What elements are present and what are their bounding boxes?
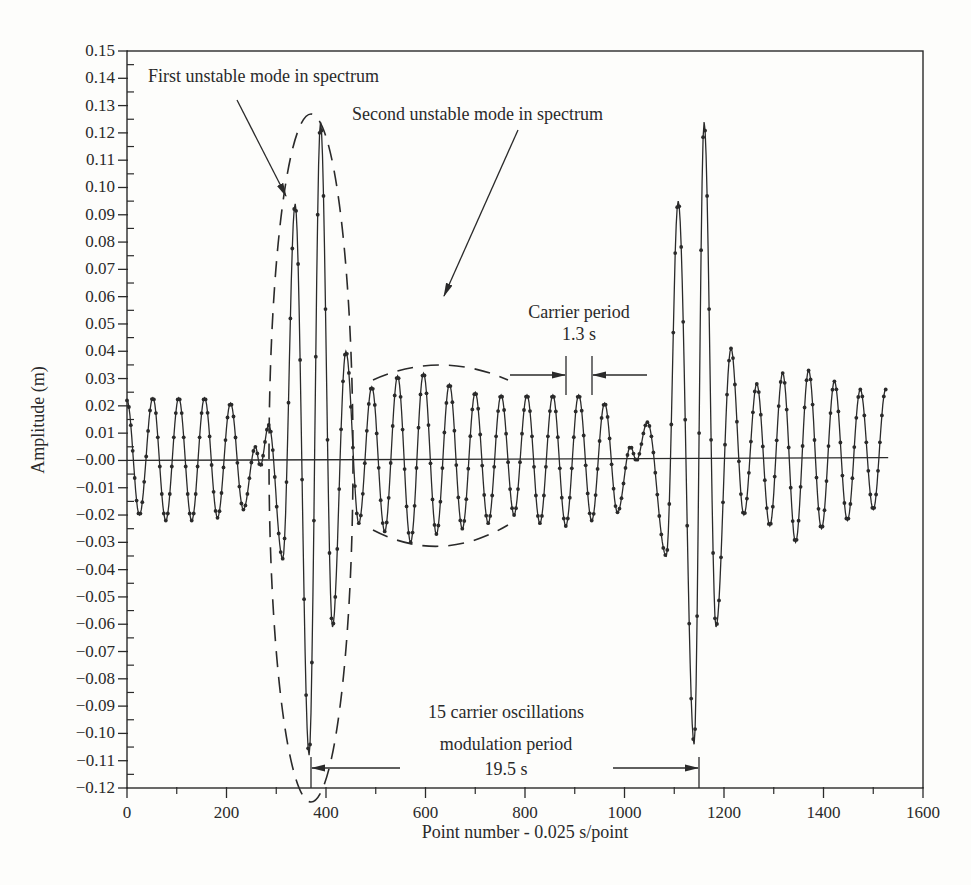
y-tick-label: 0.08: [85, 232, 115, 251]
x-tick-label: 1600: [906, 803, 940, 822]
y-tick-label: −0.07: [76, 642, 116, 661]
y-tick-label: 0.09: [85, 205, 115, 224]
amplitude-series: [125, 122, 888, 755]
y-tick-label: 0.14: [85, 68, 115, 87]
x-tick-label: 200: [214, 803, 240, 822]
y-tick-label: 0.10: [85, 177, 115, 196]
second-mode-envelope-upper: [373, 365, 508, 380]
y-tick-label: 0.11: [86, 150, 115, 169]
x-tick-label: 1200: [707, 803, 741, 822]
y-tick-label: −0.06: [76, 614, 115, 633]
y-tick-label: 0.13: [85, 96, 115, 115]
y-tick-label: −0.09: [76, 696, 115, 715]
y-tick-label: 0.15: [85, 41, 115, 60]
y-tick-label: −0.12: [76, 778, 115, 797]
x-tick-label: 600: [413, 803, 439, 822]
x-tick-label: 400: [313, 803, 339, 822]
y-tick-label: −0.04: [76, 560, 116, 579]
y-axis: 0.150.140.130.120.110.100.090.080.070.06…: [76, 41, 134, 797]
y-tick-label: −0.00: [76, 450, 115, 469]
annotation-modulation-period: modulation period: [440, 734, 572, 754]
second-mode-arrow: [444, 130, 518, 296]
second-mode-envelope-lower: [373, 525, 508, 546]
y-tick-label: 0.07: [85, 259, 115, 278]
y-tick-label: −0.02: [76, 505, 115, 524]
x-tick-label: 0: [123, 803, 132, 822]
y-tick-label: −0.05: [76, 587, 115, 606]
amplitude-chart: 0.150.140.130.120.110.100.090.080.070.06…: [0, 0, 971, 885]
y-tick-label: 0.02: [85, 396, 115, 415]
y-tick-label: 0.06: [85, 287, 115, 306]
first-mode-arrow: [237, 100, 286, 196]
annotation-carrier-value: 1.3 s: [562, 324, 596, 344]
y-tick-label: −0.03: [76, 532, 115, 551]
x-tick-label: 1400: [807, 803, 841, 822]
y-tick-label: −0.10: [76, 723, 115, 742]
annotation-carrier-count: 15 carrier oscillations: [428, 702, 584, 722]
annotation-modulation-value: 19.5 s: [484, 759, 527, 779]
annotation-first-mode: First unstable mode in spectrum: [148, 66, 379, 86]
annotation-carrier-period: Carrier period: [528, 302, 629, 322]
y-tick-label: −0.01: [76, 478, 115, 497]
x-axis-title: Point number - 0.025 s/point: [422, 822, 629, 842]
x-axis: 02004006008001000120014001600: [123, 787, 940, 822]
x-tick-label: 800: [512, 803, 538, 822]
y-tick-label: −0.08: [76, 669, 115, 688]
x-tick-label: 1000: [608, 803, 642, 822]
y-axis-title: Amplitude (m): [28, 366, 49, 473]
y-tick-label: 0.01: [85, 423, 115, 442]
annotation-second-mode: Second unstable mode in spectrum: [352, 104, 603, 124]
y-tick-label: 0.04: [85, 341, 115, 360]
y-tick-label: 0.03: [85, 369, 115, 388]
y-tick-label: 0.05: [85, 314, 115, 333]
y-tick-label: 0.12: [85, 123, 115, 142]
y-tick-label: −0.11: [76, 751, 115, 770]
annotations: First unstable mode in spectrum Second u…: [148, 66, 699, 802]
